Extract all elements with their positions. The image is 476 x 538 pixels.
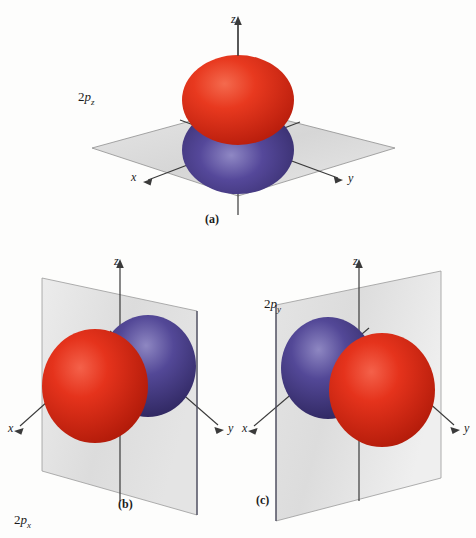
axis-label-z: z <box>114 254 119 269</box>
lobe-positive-red <box>329 333 435 447</box>
panel-2py: 2py z x y (c) <box>236 243 476 538</box>
axis-label-z: z <box>353 254 358 269</box>
axis-arrow-x <box>143 179 152 186</box>
axis-label-x: x <box>8 421 13 436</box>
axis-label-x: x <box>131 170 136 185</box>
axis-arrow-x <box>14 428 24 435</box>
lobe-positive-red <box>42 329 148 443</box>
panel-2pz-graphic <box>0 0 476 240</box>
orbital-subscript: z <box>91 97 95 107</box>
lobe-positive-red <box>182 55 294 145</box>
axis-label-y: y <box>464 421 469 436</box>
panel-2px-graphic <box>0 243 240 538</box>
orbital-label-2px: 2px <box>14 512 31 530</box>
panel-2pz: 2pz z x y (a) <box>0 0 476 240</box>
panel-2py-graphic <box>236 243 476 538</box>
orbital-label-2pz: 2pz <box>78 89 95 107</box>
axis-arrow-y <box>214 427 224 434</box>
caption-c: (c) <box>256 493 269 508</box>
caption-b: (b) <box>118 497 133 512</box>
axis-arrow-y <box>450 427 460 434</box>
axis-label-x: x <box>242 421 247 436</box>
orbital-subscript: y <box>277 304 281 314</box>
caption-a: (a) <box>205 212 219 227</box>
p-orbital-figure: 2pz z x y (a) <box>0 0 476 538</box>
orbital-subscript: x <box>27 520 31 530</box>
axis-arrow-x <box>248 428 258 435</box>
axis-label-y: y <box>348 171 353 186</box>
panel-2px: 2px z x y (b) <box>0 243 240 538</box>
axis-label-y: y <box>228 421 233 436</box>
orbital-label-2py: 2py <box>264 296 281 314</box>
axis-arrow-y <box>334 177 343 184</box>
axis-label-z: z <box>231 12 236 27</box>
